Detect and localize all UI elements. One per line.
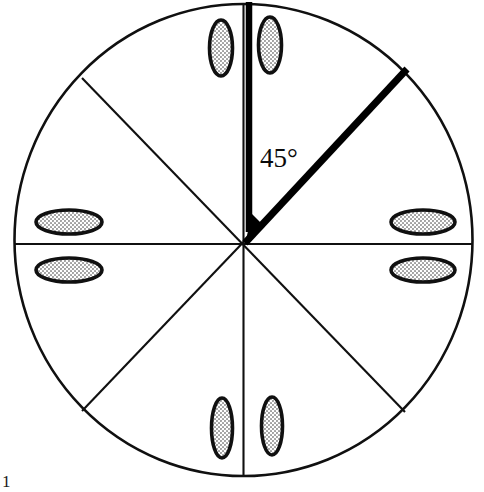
ellipse-left-lower	[36, 258, 102, 282]
figure-canvas: 45° 1	[0, 0, 484, 492]
ellipse-left-upper	[36, 210, 102, 234]
ellipse-right-lower	[391, 258, 455, 282]
sector-circle-diagram: 45° 1	[0, 0, 484, 492]
angle-label: 45°	[260, 143, 298, 173]
ellipse-top-right-of-vertical	[259, 17, 282, 73]
corner-mark: 1	[2, 472, 11, 491]
ellipse-bottom-left-of-vertical	[212, 398, 233, 458]
ellipse-top-left-of-vertical	[210, 20, 233, 76]
ellipse-bottom-right-of-vertical	[262, 397, 283, 455]
ellipse-right-upper	[391, 210, 455, 234]
